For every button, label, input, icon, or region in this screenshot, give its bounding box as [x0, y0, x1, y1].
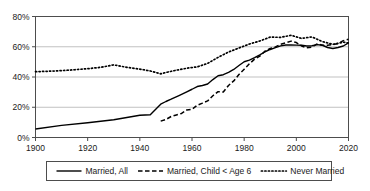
y-axis-label-80: 80%: [12, 12, 29, 22]
y-axis-label-60: 60%: [12, 42, 29, 52]
y-axis-ticks: [32, 17, 36, 138]
x-axis-ticks: [36, 138, 349, 142]
x-axis-label-1920: 1920: [78, 143, 97, 153]
x-axis-label-2000: 2000: [287, 143, 306, 153]
chart-legend: Married, AllMarried, Child < Age 6Never …: [47, 162, 345, 181]
legend-label-1: Married, Child < Age 6: [167, 166, 252, 176]
line-chart: 0%20%40%60%80% 1900192019401960198020002…: [0, 0, 370, 191]
y-axis-label-0: 0%: [17, 133, 30, 143]
series-line-2: [36, 35, 349, 74]
legend-label-0: Married, All: [86, 166, 129, 176]
x-axis-label-1980: 1980: [235, 143, 254, 153]
x-axis-label-1960: 1960: [183, 143, 202, 153]
chart-container: 0%20%40%60%80% 1900192019401960198020002…: [0, 0, 370, 191]
gridlines: [36, 47, 349, 108]
x-axis-label-2020: 2020: [339, 143, 358, 153]
x-axis-label-1940: 1940: [130, 143, 149, 153]
data-series-group: [36, 35, 349, 129]
x-axis-tick-labels: 1900192019401960198020002020: [26, 143, 358, 153]
y-axis-label-40: 40%: [12, 72, 29, 82]
y-axis-label-20: 20%: [12, 102, 29, 112]
x-axis-label-1900: 1900: [26, 143, 45, 153]
legend-label-2: Never Married: [290, 166, 344, 176]
y-axis-tick-labels: 0%20%40%60%80%: [12, 12, 29, 143]
series-line-1: [161, 39, 349, 121]
series-line-0: [36, 43, 349, 129]
